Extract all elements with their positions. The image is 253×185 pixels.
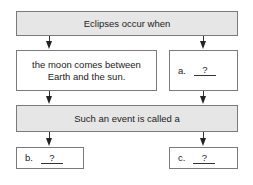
label-b: b. [25, 152, 33, 164]
top-box: Eclipses occur when [16, 11, 238, 36]
bottom-right-box: c. ? [169, 147, 238, 169]
arrow-down-icon [46, 138, 52, 146]
arrow-down-icon [46, 41, 52, 49]
left-middle-box-text: the moon comes between Earth and the sun… [21, 59, 152, 83]
blank-a: ? [194, 65, 216, 76]
left-middle-box: the moon comes between Earth and the sun… [16, 50, 157, 91]
arrow-down-icon [46, 96, 52, 104]
arrow-down-icon [200, 138, 206, 146]
blank-b: ? [41, 153, 63, 164]
bottom-left-box: b. ? [16, 147, 84, 169]
top-box-text: Eclipses occur when [84, 18, 171, 30]
right-middle-box: a. ? [169, 50, 238, 91]
blank-c: ? [193, 153, 215, 164]
middle-box: Such an event is called a [16, 105, 238, 132]
arrow-down-icon [200, 41, 206, 49]
label-c: c. [178, 152, 185, 164]
middle-box-text: Such an event is called a [74, 113, 180, 125]
arrow-down-icon [200, 96, 206, 104]
label-a: a. [178, 65, 186, 77]
